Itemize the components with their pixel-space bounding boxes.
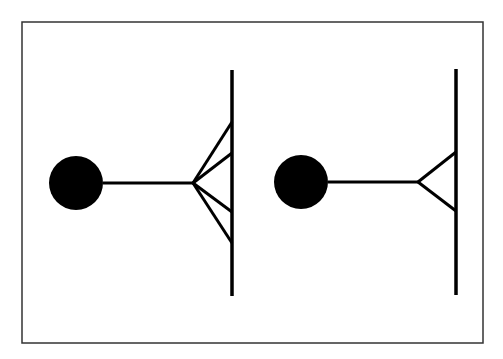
branch-line <box>193 153 232 183</box>
branch-line <box>418 182 456 211</box>
diagram-canvas <box>0 0 503 359</box>
branch-lines-left <box>193 122 232 243</box>
node-circle-right <box>274 155 328 209</box>
branch-lines-right <box>418 152 456 211</box>
branch-line <box>193 183 232 212</box>
branch-line <box>193 183 232 243</box>
figure-left <box>49 70 232 296</box>
branch-line <box>193 122 232 183</box>
figure-right <box>274 69 456 295</box>
node-circle-left <box>49 156 103 210</box>
branch-line <box>418 152 456 182</box>
